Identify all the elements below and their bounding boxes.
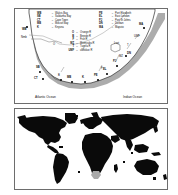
legend-rivers: O – Orange R B – Breede R F – Fish R MZ … xyxy=(60,31,132,52)
river-name: uMfolozi R xyxy=(80,49,132,53)
marker-cape-town xyxy=(42,78,44,80)
label-port-st-johns: PJ xyxy=(113,60,116,63)
label-namibia: Nmb xyxy=(21,36,27,39)
label-orange-river: O xyxy=(53,43,55,46)
label-tugela-river: T xyxy=(127,44,129,47)
label-breede-river: B xyxy=(58,74,60,77)
indian-ocean-islands xyxy=(123,161,125,163)
iceland xyxy=(75,115,78,117)
caribbean-islands xyxy=(59,146,63,148)
marker-knysna xyxy=(84,81,86,83)
indian-ocean-label: Indian Ocean xyxy=(123,95,142,99)
marker-port-elizabeth xyxy=(97,79,99,81)
label-mzimvubu-river: MZ xyxy=(119,55,123,58)
legend-code: MA xyxy=(99,26,110,29)
marker-durban xyxy=(125,55,127,57)
label-lesotho: Lsot xyxy=(114,42,119,45)
sri-lanka xyxy=(131,152,133,154)
figure-root: WB – Walvis Bay PE – Port Elizabeth SB –… xyxy=(0,0,178,195)
legend-name: Maputo xyxy=(115,26,143,29)
label-maputo: MA xyxy=(139,23,143,26)
marker-breede-river xyxy=(60,79,62,81)
label-port-elizabeth: PE xyxy=(94,74,98,77)
label-durban: DN xyxy=(127,52,131,55)
legend-localities: WB – Walvis Bay PE – Port Elizabeth SB –… xyxy=(37,12,143,29)
legend-code: K xyxy=(37,26,50,29)
label-mossel-bay: MB xyxy=(67,76,71,79)
marker-saldanha-bay xyxy=(39,71,41,73)
regional-map-panel: WB – Walvis Bay PE – Port Elizabeth SB –… xyxy=(14,8,168,104)
legend-name: Knysna xyxy=(55,26,99,29)
label-saldanha-bay: SB xyxy=(36,66,40,69)
tasmania xyxy=(153,177,156,180)
label-walvis-bay: WB xyxy=(22,28,26,31)
river-code: UMF xyxy=(60,49,74,53)
world-map-svg xyxy=(15,109,167,189)
marker-east-london xyxy=(106,73,108,75)
marker-mossel-bay xyxy=(71,81,73,83)
world-inset-panel xyxy=(14,108,168,190)
label-east-london: EL xyxy=(103,68,106,71)
south-atlantic-islands xyxy=(78,171,80,173)
label-umfolozi-river: UMF xyxy=(134,35,140,38)
marker-maputo xyxy=(143,27,145,29)
marker-port-st-johns xyxy=(116,65,118,67)
label-cape-town: CT xyxy=(34,77,38,80)
label-knysna: K xyxy=(82,76,84,79)
atlantic-ocean-label: Atlantic Ocean xyxy=(35,95,56,99)
